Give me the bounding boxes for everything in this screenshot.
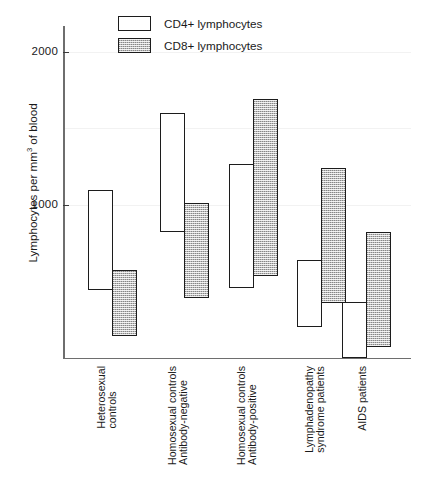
bar-cd4-group-2 bbox=[160, 113, 185, 232]
category-label-5: AIDS patients bbox=[357, 366, 368, 431]
bar-cd8-group-4 bbox=[321, 168, 346, 303]
gridline-1500 bbox=[64, 128, 411, 129]
y-tick-label-2000: 2000 bbox=[14, 45, 58, 57]
bar-cd4-group-4 bbox=[297, 260, 322, 327]
category-label-1: Heterosexual controls bbox=[96, 366, 119, 428]
category-label-2: Homosexual controls Antibody-negative bbox=[167, 366, 190, 465]
bar-cd8-group-2 bbox=[184, 203, 209, 299]
bar-cd8-group-1 bbox=[112, 270, 137, 336]
bar-cd4-group-3 bbox=[229, 164, 254, 288]
y-tick-2000 bbox=[63, 52, 69, 53]
category-label-4: Lymphadenopathy syndrome patients bbox=[304, 366, 327, 453]
legend-label-cd8: CD8+ lymphocytes bbox=[164, 39, 262, 52]
legend-swatch-cd4-icon bbox=[118, 16, 151, 31]
y-axis-title-post: of blood bbox=[26, 103, 39, 147]
bar-cd4-group-5 bbox=[342, 302, 367, 358]
y-axis-title-pre: Lymphocytes per mm bbox=[26, 152, 39, 262]
y-axis-line bbox=[63, 26, 65, 358]
category-label-3: Homosexual controls Antibody-positive bbox=[236, 366, 259, 465]
y-axis-title: Lymphocytes per mm3 of blood bbox=[25, 83, 39, 283]
legend: CD4+ lymphocytes CD8+ lymphocytes bbox=[118, 14, 262, 58]
bar-cd8-group-3 bbox=[253, 99, 278, 276]
legend-swatch-cd8-icon bbox=[118, 38, 151, 53]
chart-canvas: 2000 1000 Lymphocytes per mm3 of blood C… bbox=[0, 0, 424, 494]
legend-label-cd4: CD4+ lymphocytes bbox=[164, 17, 262, 30]
bar-cd4-group-1 bbox=[88, 190, 113, 290]
y-axis-title-exponent: 3 bbox=[25, 148, 34, 152]
y-tick-1000 bbox=[63, 205, 69, 206]
bar-cd8-group-5 bbox=[366, 232, 391, 347]
legend-item-cd4: CD4+ lymphocytes bbox=[118, 14, 262, 33]
legend-item-cd8: CD8+ lymphocytes bbox=[118, 36, 262, 55]
